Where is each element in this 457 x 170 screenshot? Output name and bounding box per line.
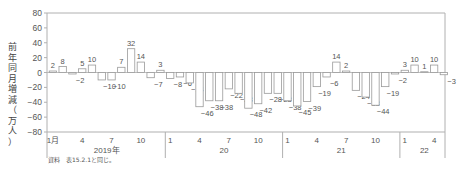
bar-value-label: −19: [387, 89, 400, 98]
bar-value-label: −19: [318, 89, 331, 98]
bar-value-label: 3: [403, 60, 407, 69]
x-year-label: 21: [337, 146, 346, 155]
bar: [59, 67, 66, 73]
bar-value-label: 2: [51, 61, 55, 70]
bar-value-label: −2: [398, 76, 407, 85]
bar: [245, 73, 252, 109]
x-month-label: 7: [227, 136, 232, 145]
bar: [294, 73, 301, 106]
x-month-label: 1月: [47, 136, 59, 145]
x-month-label: 1: [403, 136, 408, 145]
bar-value-label: 7: [119, 57, 123, 66]
y-axis-label-char: 年: [6, 53, 18, 64]
bar-value-label: −10: [113, 82, 126, 91]
bar: [352, 73, 359, 91]
bar-value-label: −42: [259, 106, 272, 115]
bar: [157, 70, 164, 72]
bar: [69, 73, 76, 74]
y-tick-label: 40: [33, 38, 43, 48]
bar: [137, 62, 144, 72]
y-axis-label-char: 増: [6, 84, 18, 95]
bar-value-label: −7: [154, 80, 163, 89]
bar: [323, 73, 330, 77]
bar: [313, 73, 320, 87]
bar: [118, 67, 125, 72]
y-tick-label: −20: [28, 82, 43, 92]
bar-value-label: 10: [88, 55, 96, 64]
bar-chart: 806040200−20−40−60−8028−2510−10−1073214−…: [0, 0, 457, 170]
x-year-label: 20: [219, 146, 228, 155]
bar: [440, 73, 447, 75]
x-month-label: 4: [315, 136, 320, 145]
x-month-label: 10: [371, 136, 380, 145]
y-axis-label: 前年同月増減（万人）: [6, 42, 18, 147]
bar-value-label: −38: [220, 103, 233, 112]
y-tick-label: 20: [33, 53, 43, 63]
bar-value-label: −6: [330, 79, 339, 88]
bar-value-label: 3: [158, 60, 162, 69]
x-month-label: 7: [109, 136, 114, 145]
bar: [79, 69, 86, 73]
bar: [127, 49, 134, 73]
x-month-label: 4: [432, 136, 437, 145]
y-tick-label: 60: [33, 23, 43, 33]
x-month-label: 4: [197, 136, 202, 145]
bar: [362, 73, 369, 98]
bar-value-label: −3: [447, 77, 456, 86]
bar-value-label: 32: [127, 39, 135, 48]
bar-value-label: −8: [174, 80, 183, 89]
bar: [167, 73, 174, 79]
bar: [303, 73, 310, 102]
bar: [274, 73, 281, 94]
y-axis-label-char: （: [6, 105, 18, 116]
bar: [264, 73, 271, 94]
bar: [372, 73, 379, 106]
bar-value-label: 1: [422, 62, 426, 71]
bar: [176, 73, 183, 77]
x-month-label: 1: [168, 136, 173, 145]
bar: [421, 72, 428, 73]
bar-value-label: 14: [332, 52, 340, 61]
bar: [333, 62, 340, 72]
y-axis-label-char: 減: [6, 95, 18, 106]
bar-value-label: −44: [377, 107, 390, 116]
bar: [215, 73, 222, 101]
bar-value-label: 2: [344, 61, 348, 70]
bar: [88, 65, 95, 72]
bar: [49, 71, 56, 72]
y-tick-label: −80: [28, 127, 43, 137]
y-tick-label: 80: [33, 8, 43, 18]
x-month-label: 10: [254, 136, 263, 145]
bar: [342, 71, 349, 72]
source-note: 資料 表15.2.1と同じ。: [48, 155, 115, 164]
y-axis-label-char: 人: [6, 126, 18, 137]
y-tick-label: −60: [28, 112, 43, 122]
bar-value-label: 5: [80, 59, 84, 68]
bar: [401, 70, 408, 72]
y-axis-label-char: 同: [6, 63, 18, 74]
x-year-label: 2019年: [94, 145, 120, 155]
bar: [225, 73, 232, 89]
y-tick-label: −40: [28, 97, 43, 107]
bar: [382, 73, 389, 87]
bar: [430, 65, 437, 72]
x-year-label: 22: [420, 146, 429, 155]
bar: [186, 73, 193, 83]
bar: [147, 73, 154, 78]
bar-value-label: 10: [430, 55, 438, 64]
bar-value-label: −39: [308, 104, 321, 113]
y-axis-label-char: 前: [6, 42, 18, 53]
bar-value-label: 8: [61, 57, 65, 66]
bar: [98, 73, 105, 80]
bar: [284, 73, 291, 101]
y-axis-label-char: 月: [6, 74, 18, 85]
y-axis-label-char: ）: [6, 137, 18, 148]
y-axis-label-char: 万: [6, 116, 18, 127]
bar: [254, 73, 261, 104]
bar: [206, 73, 213, 101]
x-month-label: 10: [136, 136, 145, 145]
x-month-label: 7: [344, 136, 349, 145]
bar: [391, 73, 398, 74]
bar: [411, 65, 418, 72]
bar-value-label: 14: [137, 52, 145, 61]
